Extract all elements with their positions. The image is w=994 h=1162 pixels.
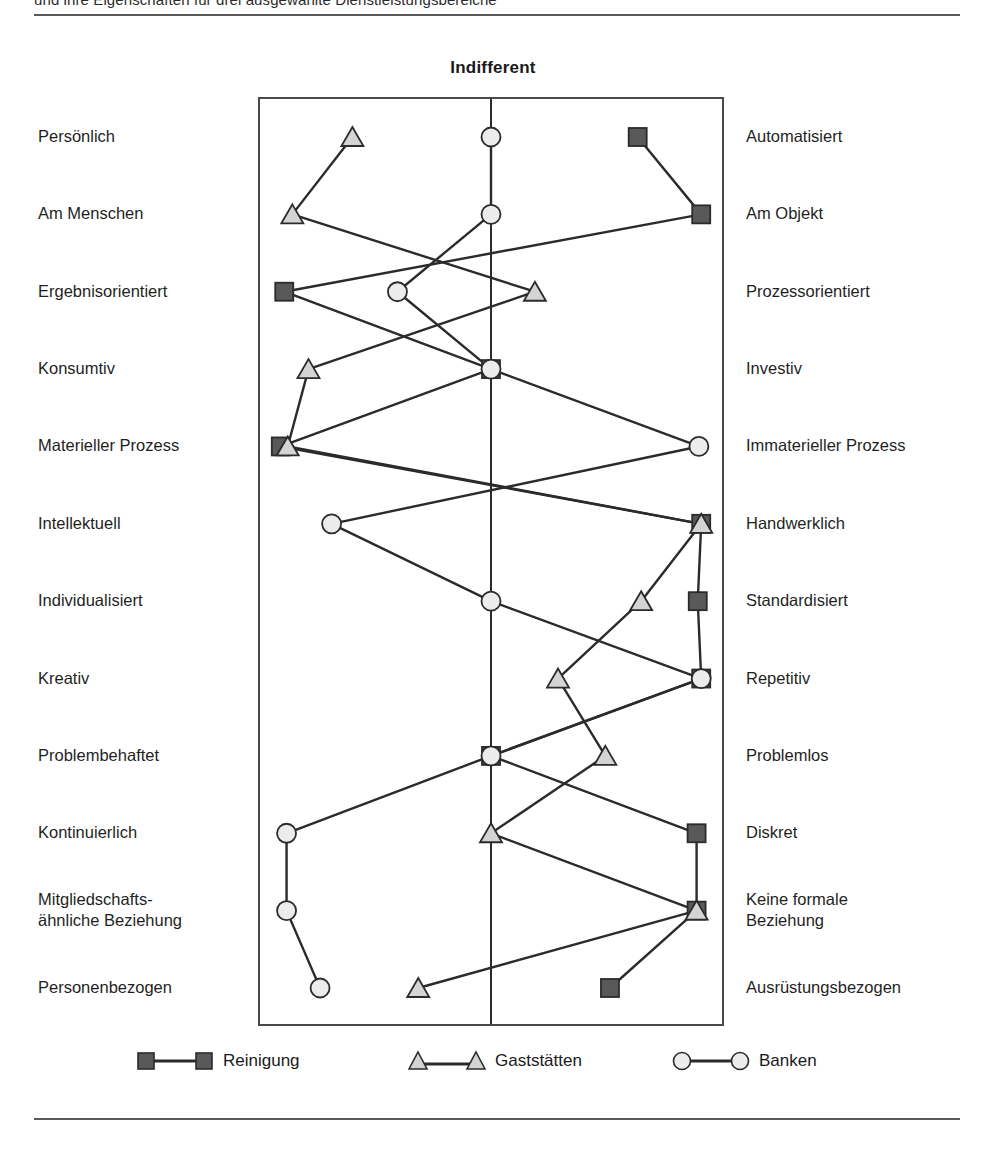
chart-plot-area — [258, 97, 724, 1026]
chart-title: Indifferent — [0, 58, 994, 78]
legend-label-reinigung: Reinigung — [223, 1051, 300, 1071]
series-line-gaststtten — [288, 137, 701, 988]
data-point-banken — [277, 824, 296, 843]
left-pole-label: Am Menschen — [38, 203, 248, 224]
right-pole-label: Problemlos — [746, 745, 986, 766]
right-pole-label: Investiv — [746, 358, 986, 379]
right-pole-label: Automatisiert — [746, 126, 986, 147]
data-point-reinigung — [692, 205, 710, 223]
right-pole-label: Handwerklich — [746, 513, 986, 534]
data-point-gaststtten — [281, 204, 303, 223]
data-point-banken — [482, 360, 501, 379]
data-point-gaststtten — [524, 282, 546, 301]
data-point-banken — [482, 746, 501, 765]
triangle-marker-icon — [408, 1050, 486, 1072]
profile-chart-svg — [260, 99, 722, 1024]
right-pole-label: Prozessorientiert — [746, 281, 986, 302]
left-pole-label: Intellektuell — [38, 513, 248, 534]
data-point-gaststtten — [407, 978, 429, 997]
data-point-gaststtten — [594, 746, 616, 765]
data-point-banken — [689, 437, 708, 456]
data-point-banken — [482, 205, 501, 224]
left-pole-label: Individualisiert — [38, 590, 248, 611]
data-point-gaststtten — [341, 127, 363, 146]
left-pole-label: Materieller Prozess — [38, 435, 248, 456]
left-pole-label: Konsumtiv — [38, 358, 248, 379]
square-marker-icon — [136, 1050, 214, 1072]
right-pole-label: Standardisiert — [746, 590, 986, 611]
legend-label-banken: Banken — [759, 1051, 817, 1071]
left-pole-label: Mitgliedschafts- ähnliche Beziehung — [38, 889, 248, 931]
legend-item-banken: Banken — [672, 1050, 817, 1072]
circle-marker-icon — [672, 1050, 750, 1072]
data-point-banken — [388, 282, 407, 301]
left-pole-label: Problembehaftet — [38, 745, 248, 766]
data-point-banken — [482, 128, 501, 147]
data-point-banken — [482, 592, 501, 611]
data-point-banken — [692, 669, 711, 688]
left-pole-label: Persönlich — [38, 126, 248, 147]
legend-label-gaststaetten: Gaststätten — [495, 1051, 582, 1071]
left-pole-label: Kreativ — [38, 668, 248, 689]
data-point-banken — [311, 979, 330, 998]
right-pole-label: Ausrüstungsbezogen — [746, 977, 986, 998]
right-pole-label: Diskret — [746, 822, 986, 843]
data-point-gaststtten — [298, 359, 320, 378]
left-pole-label: Kontinuierlich — [38, 822, 248, 843]
page-rule-top — [34, 14, 960, 16]
right-pole-label: Immaterieller Prozess — [746, 435, 986, 456]
data-point-banken — [277, 901, 296, 920]
chart-legend: Reinigung Gaststätten Banken — [0, 1048, 994, 1088]
left-pole-label: Personenbezogen — [38, 977, 248, 998]
data-point-gaststtten — [630, 591, 652, 610]
chart-title-text: Indifferent — [450, 58, 535, 78]
data-point-reinigung — [689, 592, 707, 610]
page-rule-bottom — [34, 1118, 960, 1120]
legend-item-reinigung: Reinigung — [136, 1050, 300, 1072]
data-point-reinigung — [275, 283, 293, 301]
right-pole-label: Am Objekt — [746, 203, 986, 224]
series-line-banken — [287, 137, 702, 988]
left-pole-label: Ergebnisorientiert — [38, 281, 248, 302]
legend-item-gaststaetten: Gaststätten — [408, 1050, 582, 1072]
data-point-banken — [322, 514, 341, 533]
data-point-reinigung — [688, 824, 706, 842]
right-pole-label: Keine formale Beziehung — [746, 889, 986, 931]
data-point-gaststtten — [480, 823, 502, 842]
data-point-reinigung — [601, 979, 619, 997]
right-pole-label: Repetitiv — [746, 668, 986, 689]
data-point-reinigung — [629, 128, 647, 146]
running-head: und ihre Eigenschaften für drei ausgewäh… — [34, 0, 960, 13]
